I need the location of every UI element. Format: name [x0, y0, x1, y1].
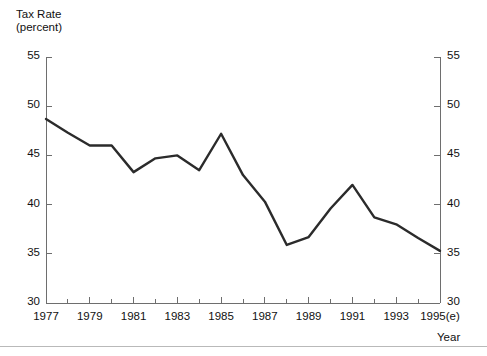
x-axis-title: Year — [437, 331, 460, 344]
footer-rule — [0, 346, 487, 347]
tax-rate-series-line — [46, 119, 440, 251]
y-tick-label-left: 35 — [14, 246, 40, 258]
y-tick-label-right: 40 — [447, 197, 477, 209]
y-tick-label-right: 55 — [447, 49, 477, 61]
y-tick-label-left: 30 — [14, 295, 40, 307]
y-tick-label-right: 35 — [447, 246, 477, 258]
y-tick-label-right: 30 — [447, 295, 477, 307]
y-tick-label-right: 50 — [447, 98, 477, 110]
y-tick-label-right: 45 — [447, 147, 477, 159]
y-axis-title-line1: Tax Rate — [16, 8, 61, 20]
y-tick-label-left: 40 — [14, 197, 40, 209]
axes-group — [46, 57, 440, 303]
y-tick-label-left: 50 — [14, 98, 40, 110]
y-tick-label-left: 45 — [14, 147, 40, 159]
axis-ticks — [46, 57, 440, 303]
x-tick-label: 1995(e) — [410, 310, 470, 322]
y-axis-title-line2: (percent) — [16, 21, 62, 33]
y-axis-title: Tax Rate(percent) — [16, 8, 62, 34]
y-tick-label-left: 55 — [14, 49, 40, 61]
plot-area — [0, 0, 487, 356]
tax-rate-line-chart: Tax Rate(percent) Year 55555050454540403… — [0, 0, 487, 356]
